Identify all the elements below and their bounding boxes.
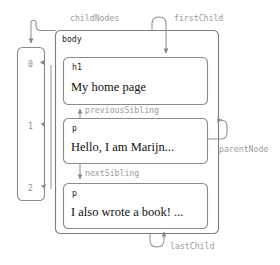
parent-node-connector (208, 120, 228, 139)
array-index-0: 0 (28, 60, 33, 69)
child-2-text: I also wrote a book! ... (71, 205, 183, 220)
child-2-tag: p (72, 188, 77, 198)
child-0-text: My home page (71, 80, 146, 95)
first-child-connector (152, 17, 166, 53)
label-previous-sibling: previousSibling (85, 105, 159, 115)
child-0-tag: h1 (72, 62, 82, 72)
body-tag-label: body (62, 34, 82, 44)
label-next-sibling: nextSibling (85, 168, 139, 178)
label-first-child: firstChild (174, 13, 223, 23)
label-parent-node: parentNode (219, 144, 268, 154)
last-child-connector (150, 232, 164, 247)
body-box (56, 31, 219, 234)
label-last-child: lastChild (170, 241, 214, 251)
diagram-lines-layer (0, 0, 280, 265)
label-child-nodes: childNodes (70, 13, 119, 23)
child-nodes-connector (31, 21, 56, 44)
array-index-2: 2 (28, 184, 33, 193)
child-1-tag: p (72, 123, 77, 133)
child-1-text: Hello, I am Marijn... (71, 140, 174, 155)
dom-diagram: body 0 1 2 h1 My home page p Hello, I am… (0, 0, 280, 265)
array-index-1: 1 (28, 122, 33, 131)
